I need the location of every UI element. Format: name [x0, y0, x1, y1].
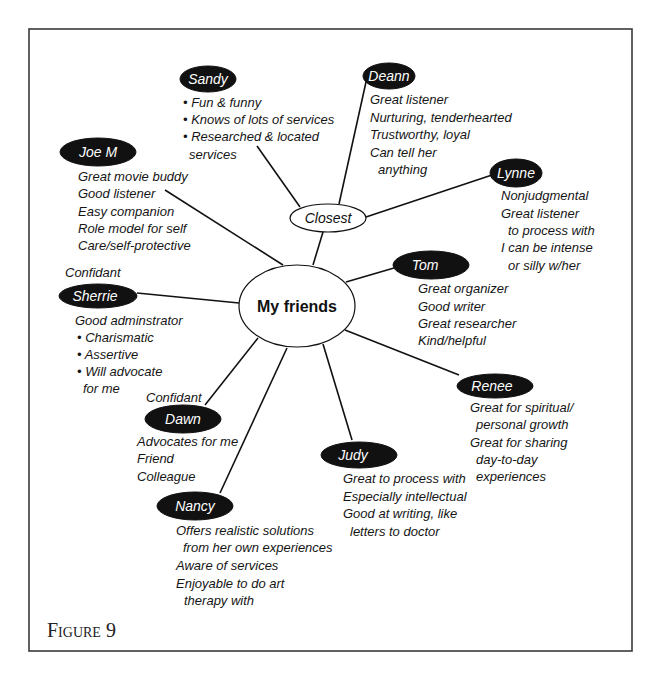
sandy-note: services [189, 147, 237, 162]
judy-note: Especially intellectual [343, 489, 468, 504]
joe-m-note: Great movie buddy [78, 169, 189, 184]
deann-label: Deann [368, 68, 409, 84]
tom-note: Great researcher [418, 316, 517, 331]
joe-m-note: Easy companion [78, 204, 174, 219]
tom-label: Tom [412, 257, 439, 273]
lynne-note: or silly w/her [508, 258, 581, 273]
judy-note: letters to doctor [350, 524, 440, 539]
sandy-note: • Knows of lots of services [183, 112, 335, 127]
sherrie-note: • Will advocate [77, 364, 162, 379]
sherrie-note: • Assertive [77, 347, 138, 362]
sherrie-note: • Charismatic [77, 330, 154, 345]
joe-m-note: Good listener [78, 186, 156, 201]
lynne-note: I can be intense [501, 240, 593, 255]
deann-note: Great listener [370, 92, 449, 107]
sherrie-label: Sherrie [72, 288, 117, 304]
nancy-note: Aware of services [175, 558, 279, 573]
joe-m-label: Joe M [78, 144, 117, 160]
nancy-note: therapy with [184, 593, 254, 608]
sherrie-note: for me [83, 381, 120, 396]
judy-label: Judy [337, 447, 369, 463]
deann-note: Trustworthy, loyal [370, 127, 471, 142]
judy-note: Great to process with [343, 471, 466, 486]
joe-m-note: Role model for self [78, 221, 188, 236]
nancy-note: from her own experiences [183, 540, 333, 555]
lynne-note: to process with [508, 223, 595, 238]
lynne-label: Lynne [497, 165, 535, 181]
tom-note: Kind/helpful [418, 333, 487, 348]
sandy-note: • Researched & located [183, 129, 320, 144]
center-node: My friends [239, 265, 355, 347]
deann-note: Nurturing, tenderhearted [370, 110, 512, 125]
dawn-note: Colleague [137, 469, 196, 484]
nancy-label: Nancy [175, 498, 216, 514]
deann-note: Can tell her [370, 145, 437, 160]
dawn-note: Friend [137, 451, 175, 466]
sandy-note: • Fun & funny [183, 95, 263, 110]
judy-note: Good at writing, like [343, 506, 457, 521]
dawn-tag: Confidant [146, 390, 203, 405]
sherrie-tag: Confidant [65, 265, 122, 280]
nancy-note: Enjoyable to do art [176, 576, 286, 591]
closest-hub-node: Closest [290, 204, 366, 232]
deann-note: anything [378, 162, 428, 177]
dawn-note: Advocates for me [136, 434, 238, 449]
dawn-label: Dawn [165, 411, 201, 427]
nancy-note: Offers realistic solutions [176, 523, 314, 538]
joe-m-note: Care/self-protective [78, 238, 191, 253]
renee-note: experiences [476, 469, 547, 484]
lynne-note: Great listener [501, 206, 580, 221]
friends-mind-map: My friends Closest Sandy • Fun & funny •… [0, 0, 662, 682]
renee-note: personal growth [475, 417, 569, 432]
sherrie-note: Good adminstrator [75, 313, 183, 328]
tom-note: Good writer [418, 299, 486, 314]
lynne-note: Nonjudgmental [501, 188, 590, 203]
sandy-label: Sandy [188, 71, 229, 87]
figure-caption: Figure 9 [47, 619, 116, 641]
tom-note: Great organizer [418, 281, 509, 296]
renee-note: day-to-day [476, 452, 539, 467]
center-label: My friends [257, 298, 337, 315]
renee-note: Great for sharing [470, 435, 568, 450]
renee-label: Renee [471, 378, 512, 394]
renee-note: Great for spiritual/ [470, 400, 575, 415]
closest-label: Closest [305, 210, 353, 226]
